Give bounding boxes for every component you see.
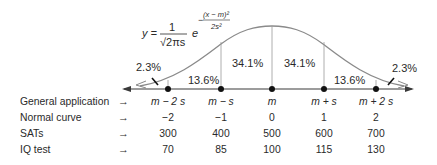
cell-general-m+s: m + s [306,94,342,108]
row-label-normal-curve: Normal curve [20,110,82,124]
row-arrow-icon: → [118,110,129,124]
region-label-left-tail: 2.3% [136,61,161,73]
region-label-m-s-m: 34.1% [232,57,263,69]
cell-iq-0: 70 [150,142,186,156]
cell-general-m+2s: m + 2 s [358,94,394,108]
cell-iq-2: 100 [254,142,290,156]
region-label-m+s-m+2s: 13.6% [334,74,365,86]
cell-general-m: m [254,94,290,108]
row-arrow-icon: → [118,126,129,140]
cell-general-m-2s: m − 2 s [150,94,186,108]
formula-exponent-numerator: (x − m)² [203,10,230,19]
axis-right-arrow-icon [405,86,414,92]
cell-normal-1: −1 [203,110,239,124]
formula-denominator: √2πs [160,36,186,48]
cell-sats-3: 600 [306,126,342,140]
axis-left-arrow-icon [122,86,131,92]
formula-lhs: y = [141,27,158,39]
cell-sats-2: 500 [254,126,290,140]
cell-sats-0: 300 [150,126,186,140]
row-arrow-icon: → [118,142,129,156]
region-label-m-m+s: 34.1% [284,57,315,69]
cell-normal-4: 2 [358,110,394,124]
region-label-right-tail: 2.3% [392,62,417,74]
cell-sats-1: 400 [203,126,239,140]
cell-iq-4: 130 [358,142,394,156]
point-m+s [321,86,327,92]
formula-exponent-denominator: 2s² [210,22,222,31]
point-m-2s [165,86,171,92]
point-m+2s [373,86,379,92]
row-label-general-application: General application [20,94,109,108]
row-arrow-icon: → [118,94,129,108]
row-label-iq-test: IQ test [20,142,50,156]
cell-sats-4: 700 [358,126,394,140]
normal-distribution-diagram: 2.3% 13.6% 34.1% 34.1% 13.6% 2.3% y = 1 … [0,0,437,165]
cell-normal-3: 1 [306,110,342,124]
point-m [269,86,275,92]
row-label-sats: SATs [20,126,43,140]
point-m-s [218,86,224,92]
formula-base: e [192,27,198,39]
cell-iq-3: 115 [306,142,342,156]
formula-numerator: 1 [169,21,175,33]
region-label-m-2s-m-s: 13.6% [188,74,219,86]
cell-general-m-s: m − s [203,94,239,108]
cell-iq-1: 85 [203,142,239,156]
cell-normal-2: 0 [254,110,290,124]
normal-pdf-formula: y = 1 √2πs e − (x − m)² 2s² [141,10,230,48]
cell-normal-0: −2 [150,110,186,124]
